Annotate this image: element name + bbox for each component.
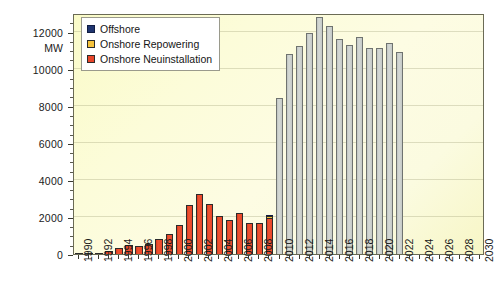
x-axis-tick-mark [439, 255, 440, 259]
y-axis-tick-label: 10000 [33, 64, 63, 76]
x-axis-tick-mark [218, 255, 219, 259]
bar-column [336, 39, 343, 254]
x-axis-tick-mark [279, 255, 280, 259]
x-axis: 1990199219941996199820002002200420062008… [73, 255, 484, 301]
x-axis-tick-mark [299, 255, 300, 259]
x-axis-tick-mark [138, 255, 139, 259]
legend-label-offshore: Offshore [100, 23, 140, 35]
x-axis-tick-mark [389, 255, 390, 259]
bar-column [366, 48, 373, 254]
x-axis-tick-mark [399, 255, 400, 259]
x-axis-tick-mark [349, 255, 350, 259]
bar-segment-forecast [396, 52, 403, 254]
bar-column [376, 48, 383, 254]
y-axis-tick-label: 8000 [39, 101, 63, 113]
x-axis-tick-mark [258, 255, 259, 259]
bar-column [396, 52, 403, 254]
bar-segment-forecast [336, 39, 343, 254]
x-axis-tick-mark [128, 255, 129, 259]
bar-column [386, 43, 393, 254]
bar-column [326, 26, 333, 254]
bar-segment-forecast [276, 98, 283, 254]
x-axis-tick-mark [228, 255, 229, 259]
x-axis-tick-mark [118, 255, 119, 259]
bar-segment-forecast [316, 17, 323, 254]
bar-column [296, 46, 303, 254]
x-axis-tick-mark [248, 255, 249, 259]
x-axis-tick-mark [168, 255, 169, 259]
x-axis-tick-mark [369, 255, 370, 259]
x-axis-tick-mark [289, 255, 290, 259]
x-axis-tick-mark [479, 255, 480, 259]
bar-segment-forecast [346, 45, 353, 254]
bar-column [306, 33, 313, 254]
x-axis-tick-mark [449, 255, 450, 259]
x-axis-tick-mark [178, 255, 179, 259]
x-axis-tick-mark [459, 255, 460, 259]
y-axis-tick-label: 12000 [33, 27, 63, 39]
chart-legend: Offshore Onshore Repowering Onshore Neui… [81, 17, 220, 71]
x-axis-tick-mark [469, 255, 470, 259]
bar-segment-forecast [306, 33, 313, 254]
bar-column [316, 17, 323, 254]
x-axis-tick-mark [198, 255, 199, 259]
x-axis-tick-mark [419, 255, 420, 259]
bar-column [286, 54, 293, 254]
x-axis-tick-mark [409, 255, 410, 259]
legend-swatch-offshore-icon [87, 25, 95, 33]
x-axis-tick-mark [339, 255, 340, 259]
legend-swatch-neuinstallation-icon [87, 55, 95, 63]
bar-segment-forecast [366, 48, 373, 254]
y-axis-tick-label: 2000 [39, 212, 63, 224]
bar-segment-forecast [326, 26, 333, 254]
x-axis-tick-mark [78, 255, 79, 259]
x-axis-tick-mark [359, 255, 360, 259]
x-axis-tick-mark [238, 255, 239, 259]
bar-column [356, 37, 363, 254]
x-axis-tick-mark [379, 255, 380, 259]
x-axis-tick-mark [148, 255, 149, 259]
y-axis-unit-label: MW [44, 42, 63, 54]
x-axis-tick-label: 2030 [483, 239, 495, 262]
x-axis-tick-mark [208, 255, 209, 259]
legend-label-onshore-neuinstallation: Onshore Neuinstallation [100, 53, 212, 65]
x-axis-tick-mark [329, 255, 330, 259]
wind-capacity-bar-chart: 020004000600080001000012000MW 1990199219… [0, 0, 503, 301]
legend-item-offshore: Offshore [87, 21, 212, 36]
legend-item-onshore-neuinstallation: Onshore Neuinstallation [87, 51, 212, 66]
y-axis-tick-label: 4000 [39, 175, 63, 187]
bar-segment-forecast [386, 43, 393, 254]
x-axis-tick-mark [319, 255, 320, 259]
x-axis-tick-mark [98, 255, 99, 259]
y-axis-tick-label: 6000 [39, 138, 63, 150]
x-axis-tick-mark [108, 255, 109, 259]
legend-label-onshore-repowering: Onshore Repowering [100, 38, 199, 50]
bar-column [276, 98, 283, 254]
x-axis-tick-mark [429, 255, 430, 259]
legend-item-onshore-repowering: Onshore Repowering [87, 36, 212, 51]
y-axis: 020004000600080001000012000MW [0, 0, 73, 269]
y-axis-tick-label: 0 [57, 249, 63, 261]
bar-segment-forecast [296, 46, 303, 254]
bar-segment-forecast [376, 48, 383, 254]
bar-segment-forecast [356, 37, 363, 254]
bar-column [346, 45, 353, 254]
x-axis-tick-mark [188, 255, 189, 259]
x-axis-tick-mark [158, 255, 159, 259]
bar-segment-forecast [286, 54, 293, 254]
x-axis-tick-mark [268, 255, 269, 259]
x-axis-tick-mark [309, 255, 310, 259]
x-axis-tick-mark [88, 255, 89, 259]
legend-swatch-repowering-icon [87, 40, 95, 48]
